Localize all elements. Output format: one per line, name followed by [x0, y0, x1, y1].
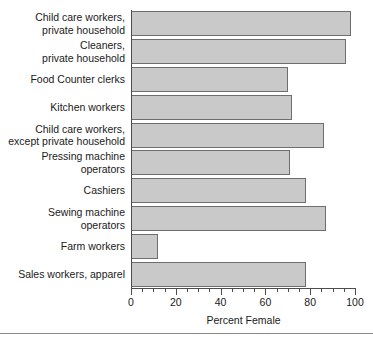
- category-label: Pressing machine operators: [0, 150, 125, 175]
- y-axis-line: [131, 10, 132, 289]
- x-tick-minor: [187, 289, 188, 292]
- category-label: Farm workers: [0, 240, 125, 253]
- x-tick-minor: [232, 289, 233, 292]
- bar-row: [131, 123, 355, 148]
- x-tick-label: 40: [215, 296, 227, 308]
- bar: [131, 39, 346, 64]
- x-tick-major: [131, 289, 132, 295]
- category-label: Cashiers: [0, 184, 125, 197]
- x-tick-minor: [321, 289, 322, 292]
- bar-row: [131, 150, 355, 175]
- x-tick-major: [310, 289, 311, 295]
- bar-row: [131, 11, 355, 36]
- x-tick-minor: [254, 289, 255, 292]
- category-label: Child care workers, private household: [0, 11, 125, 36]
- x-tick-minor: [243, 289, 244, 292]
- bar: [131, 262, 306, 287]
- bar-row: [131, 39, 355, 64]
- category-label: Child care workers, except private house…: [0, 123, 125, 148]
- bar: [131, 95, 292, 120]
- x-tick-minor: [333, 289, 334, 292]
- category-label: Food Counter clerks: [0, 73, 125, 86]
- x-tick-minor: [344, 289, 345, 292]
- x-tick-minor: [277, 289, 278, 292]
- x-tick-label: 20: [170, 296, 182, 308]
- bar-row: [131, 178, 355, 203]
- x-axis-title: Percent Female: [131, 314, 356, 326]
- x-tick-minor: [165, 289, 166, 292]
- bar-chart-figure: Child care workers, private householdCle…: [0, 0, 373, 343]
- x-tick-minor: [198, 289, 199, 292]
- bar-row: [131, 262, 355, 287]
- category-label: Kitchen workers: [0, 101, 125, 114]
- bar: [131, 178, 306, 203]
- x-tick-minor: [299, 289, 300, 292]
- horizontal-divider: [0, 333, 373, 334]
- category-axis-labels: Child care workers, private householdCle…: [0, 10, 125, 288]
- bar-row: [131, 95, 355, 120]
- x-tick-label: 0: [128, 296, 134, 308]
- x-tick-major: [355, 289, 356, 295]
- x-tick-label: 100: [346, 296, 364, 308]
- x-tick-minor: [209, 289, 210, 292]
- x-tick-minor: [153, 289, 154, 292]
- x-tick-major: [265, 289, 266, 295]
- x-tick-label: 60: [260, 296, 272, 308]
- category-label: Sales workers, apparel: [0, 268, 125, 281]
- x-tick-major: [221, 289, 222, 295]
- plot-area: [131, 10, 355, 288]
- bar-row: [131, 206, 355, 231]
- bar: [131, 11, 351, 36]
- bar: [131, 234, 158, 259]
- x-tick-minor: [142, 289, 143, 292]
- bar: [131, 123, 324, 148]
- category-label: Sewing machine operators: [0, 206, 125, 231]
- bar-row: [131, 234, 355, 259]
- bar-row: [131, 67, 355, 92]
- x-tick-label: 80: [304, 296, 316, 308]
- bar: [131, 206, 326, 231]
- bar: [131, 150, 290, 175]
- bar: [131, 67, 288, 92]
- x-tick-minor: [288, 289, 289, 292]
- x-tick-major: [176, 289, 177, 295]
- category-label: Cleaners, private household: [0, 39, 125, 64]
